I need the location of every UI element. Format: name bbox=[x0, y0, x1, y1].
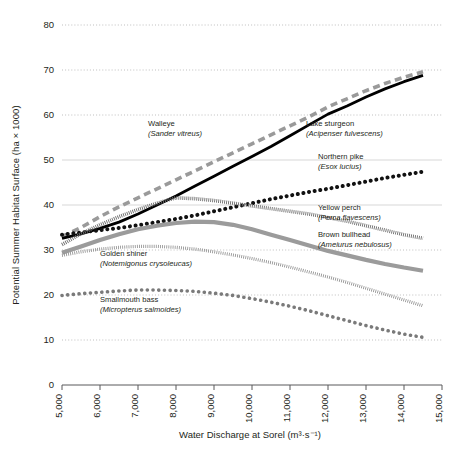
x-tick-label-14000: 14,000 bbox=[395, 394, 406, 423]
annotation-golden-shiner-latin-name: (Notemigonus crysoleucas) bbox=[100, 259, 192, 268]
habitat-surface-line-chart: 010203040506070805,0006,0007,0008,0009,0… bbox=[0, 0, 465, 451]
chart-container: 010203040506070805,0006,0007,0008,0009,0… bbox=[0, 0, 465, 451]
annotation-northern-pike-common-name: Northern pike bbox=[318, 152, 364, 161]
x-tick-label-9000: 9,000 bbox=[205, 394, 216, 418]
x-tick-label-8000: 8,000 bbox=[167, 394, 178, 418]
tick-labels: 010203040506070805,0006,0007,0008,0009,0… bbox=[43, 19, 444, 423]
x-tick-label-5000: 5,000 bbox=[53, 394, 64, 418]
series-annotations: Walleye(Sander vitreus)Lake sturgeon(Aci… bbox=[100, 119, 392, 314]
y-tick-label-0: 0 bbox=[49, 379, 54, 390]
y-tick-label-40: 40 bbox=[43, 199, 54, 210]
annotation-yellow-perch-latin-name: (Perca flavescens) bbox=[318, 213, 381, 222]
annotation-lake-sturgeon-common-name: Lake sturgeon bbox=[306, 119, 354, 128]
x-tick-label-11000: 11,000 bbox=[281, 394, 292, 422]
x-tick-label-10000: 10,000 bbox=[243, 394, 254, 423]
y-axis-title: Potential Summer Habitat Surface (ha × 1… bbox=[10, 105, 21, 305]
y-tick-label-10: 10 bbox=[43, 334, 54, 345]
y-tick-label-60: 60 bbox=[43, 109, 54, 120]
y-tick-label-20: 20 bbox=[43, 289, 54, 300]
annotation-yellow-perch-common-name: Yellow perch bbox=[318, 203, 361, 212]
y-tick-label-30: 30 bbox=[43, 244, 54, 255]
y-tick-label-70: 70 bbox=[43, 64, 54, 75]
y-tick-label-50: 50 bbox=[43, 154, 54, 165]
x-axis-title: Water Discharge at Sorel (m³·s⁻¹) bbox=[179, 429, 321, 440]
annotation-brown-bullhead-common-name: Brown bullhead bbox=[318, 230, 370, 239]
x-tick-label-13000: 13,000 bbox=[357, 394, 368, 423]
annotation-brown-bullhead-latin-name: (Ameiurus nebulosus) bbox=[318, 240, 392, 249]
x-tick-label-7000: 7,000 bbox=[129, 394, 140, 418]
x-tick-label-12000: 12,000 bbox=[319, 394, 330, 423]
axes bbox=[62, 385, 442, 390]
annotation-golden-shiner-common-name: Golden shiner bbox=[100, 249, 148, 258]
annotation-lake-sturgeon-latin-name: (Acipenser fulvescens) bbox=[306, 129, 383, 138]
annotation-smallmouth-bass-latin-name: (Micropterus salmoides) bbox=[100, 305, 181, 314]
y-tick-label-80: 80 bbox=[43, 19, 54, 30]
annotation-walleye-common-name: Walleye bbox=[148, 119, 175, 128]
x-tick-label-6000: 6,000 bbox=[91, 394, 102, 418]
annotation-smallmouth-bass-common-name: Smallmouth bass bbox=[100, 295, 158, 304]
x-tick-label-15000: 15,000 bbox=[433, 394, 444, 423]
annotation-walleye-latin-name: (Sander vitreus) bbox=[148, 129, 202, 138]
annotation-northern-pike-latin-name: (Esox lucius) bbox=[318, 162, 362, 171]
